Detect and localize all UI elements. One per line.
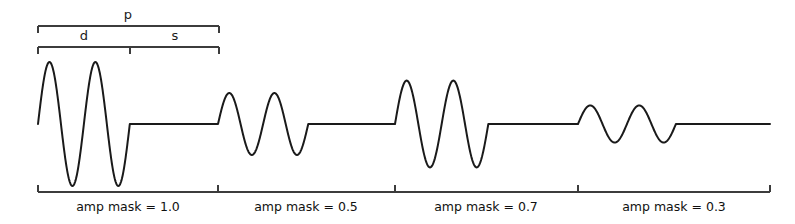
- bracket-label-d: d: [64, 29, 104, 42]
- bracket-label-s: s: [155, 29, 195, 42]
- waveform-line: [38, 62, 770, 186]
- segment-label: amp mask = 0.5: [216, 201, 396, 214]
- waveform-figure: pdsamp mask = 1.0amp mask = 0.5amp mask …: [0, 0, 795, 224]
- bracket-label-period: p: [108, 8, 148, 21]
- segment-axis: [38, 185, 770, 192]
- segment-label: amp mask = 0.3: [584, 201, 764, 214]
- segment-label: amp mask = 0.7: [396, 201, 576, 214]
- duration-silence-bracket: [38, 47, 219, 54]
- waveform-canvas: [0, 0, 795, 224]
- segment-label: amp mask = 1.0: [38, 201, 218, 214]
